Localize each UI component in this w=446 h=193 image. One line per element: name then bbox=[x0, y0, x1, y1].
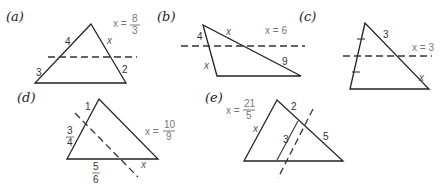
panel-label-e: (e) bbox=[205, 90, 223, 105]
panel-label-a: (a) bbox=[6, 9, 24, 24]
panel-label-c: (c) bbox=[299, 9, 316, 24]
answer-a-numerator: 8 bbox=[132, 13, 138, 24]
panel-d: (d) 1 3 4 5 6 x x = 10 9 bbox=[17, 90, 176, 185]
label-b-left-upper: 4 bbox=[197, 31, 203, 42]
answer-e-numerator: 21 bbox=[244, 98, 256, 109]
label-a-left-upper: 4 bbox=[65, 36, 71, 47]
panel-a: (a) 4 3 x 2 x = 8 3 bbox=[6, 9, 140, 83]
label-b-left-lower: x bbox=[203, 60, 210, 71]
panel-b: (b) 4 x x 9 x = 6 bbox=[157, 9, 305, 76]
label-a-right-upper: x bbox=[106, 35, 113, 46]
panel-label-b: (b) bbox=[157, 9, 175, 24]
label-c-right-upper: 3 bbox=[383, 29, 389, 40]
label-e-segment: 3 bbox=[283, 134, 289, 145]
label-e-left: x bbox=[252, 123, 259, 134]
label-a-right-lower: 2 bbox=[122, 64, 128, 75]
answer-d-prefix: x = bbox=[145, 126, 159, 137]
label-d-base-right: x bbox=[140, 159, 147, 170]
panel-c: (c) 3 x x = 3 bbox=[299, 9, 434, 89]
label-d-left-lower-num: 3 bbox=[67, 125, 73, 136]
answer-d-numerator: 10 bbox=[164, 119, 176, 130]
label-b-right-lower: 9 bbox=[282, 56, 288, 67]
answer-a-denominator: 3 bbox=[132, 25, 138, 36]
label-b-right-upper: x bbox=[225, 26, 232, 37]
answer-b: x = 6 bbox=[265, 25, 287, 36]
answer-d-denominator: 9 bbox=[166, 131, 172, 142]
answer-c: x = 3 bbox=[412, 42, 434, 53]
label-e-right-upper: 2 bbox=[291, 101, 297, 112]
label-d-left-upper: 1 bbox=[85, 101, 91, 112]
answer-e-prefix: x = bbox=[226, 105, 240, 116]
dashed-line-d bbox=[75, 113, 138, 177]
label-c-right-lower: x bbox=[418, 72, 425, 83]
label-d-base-left-den: 6 bbox=[93, 174, 99, 185]
label-d-left-lower-den: 4 bbox=[67, 137, 73, 148]
answer-e-denominator: 5 bbox=[246, 110, 252, 121]
label-e-right-lower: 5 bbox=[323, 131, 329, 142]
triangle-a bbox=[35, 24, 126, 83]
panel-label-d: (d) bbox=[17, 90, 35, 105]
answer-a-prefix: x = bbox=[113, 18, 127, 29]
panel-e: (e) x 2 5 3 x = 21 5 bbox=[205, 90, 343, 178]
parallel-lines-triangle-diagram: (a) 4 3 x 2 x = 8 3 (b) 4 x x 9 x = 6 (c… bbox=[0, 0, 446, 193]
label-d-base-left-num: 5 bbox=[93, 161, 99, 172]
label-a-left-lower: 3 bbox=[36, 67, 42, 78]
